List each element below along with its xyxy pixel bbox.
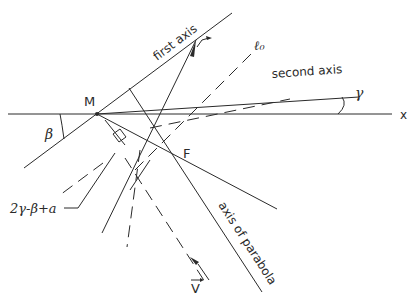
first-axis-line (24, 13, 232, 168)
label-f: F (183, 146, 190, 161)
label-m: M (84, 94, 95, 109)
label-x: x (400, 108, 407, 122)
l0-dashed-line (135, 52, 253, 170)
label-l0: ℓ₀ (254, 38, 265, 53)
parabola-geometry-diagram: M F x first axis second axis axis of par… (0, 0, 418, 306)
label-gamma: γ (355, 85, 364, 101)
label-v: V (191, 281, 200, 296)
label-angle-expression: 2γ-β+a (9, 201, 57, 216)
line-m-f (97, 114, 277, 209)
arrow-line (102, 40, 196, 233)
label-leader-diag (78, 153, 115, 208)
dashed-line-left (60, 163, 103, 195)
gamma-arc (338, 97, 344, 114)
beta-arc (60, 114, 64, 139)
label-second-axis: second axis (271, 62, 342, 81)
right-angle-mark (113, 129, 126, 142)
label-axis-of-parabola: axis of parabola (215, 199, 279, 287)
v-arrow-line (198, 264, 209, 280)
label-beta: β (44, 126, 53, 142)
small-arrow-icon (206, 36, 212, 40)
v-dashed-line (125, 158, 205, 282)
point-m (95, 112, 99, 116)
